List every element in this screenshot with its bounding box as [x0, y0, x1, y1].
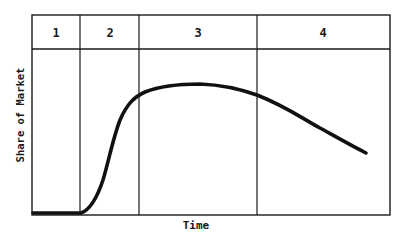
- x-axis-label: Time: [183, 219, 210, 232]
- chart-frame: [32, 15, 390, 215]
- phase-label-3: 3: [194, 26, 201, 40]
- y-axis-label: Share of Market: [14, 68, 26, 163]
- market-share-curve: [33, 84, 366, 213]
- phase-label-2: 2: [106, 26, 113, 40]
- phase-label-1: 1: [52, 26, 59, 40]
- phase-label-4: 4: [319, 26, 326, 40]
- product-life-cycle-chart: 1 2 3 4 Time Share of Market: [0, 0, 406, 242]
